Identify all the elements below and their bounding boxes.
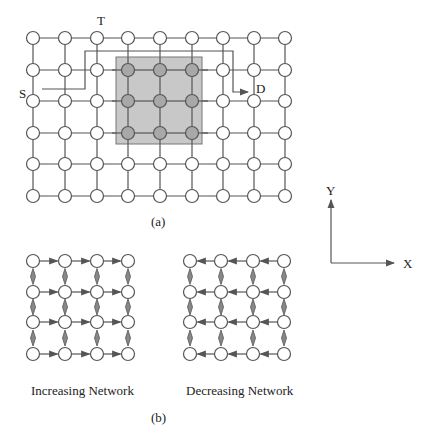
node <box>247 316 260 329</box>
node <box>59 190 72 203</box>
node <box>186 190 199 203</box>
node <box>186 127 199 140</box>
node <box>279 32 292 45</box>
bidirectional-arrow <box>282 299 287 315</box>
caption-a: (a) <box>151 214 165 230</box>
node <box>184 316 197 329</box>
label-d: D <box>256 81 265 97</box>
bidirectional-arrow <box>126 299 131 315</box>
axis-y-label: Y <box>326 183 335 199</box>
node <box>248 64 261 77</box>
node <box>154 32 167 45</box>
node <box>215 255 228 268</box>
bidirectional-arrow <box>31 299 36 315</box>
node <box>122 95 135 108</box>
increasing-network <box>27 255 135 361</box>
node <box>122 64 135 77</box>
node <box>27 255 40 268</box>
bidirectional-arrow <box>188 330 193 346</box>
node <box>154 127 167 140</box>
node <box>122 348 135 361</box>
decreasing-network-title: Decreasing Network <box>186 383 293 399</box>
node <box>247 255 260 268</box>
bidirectional-arrow <box>188 269 193 285</box>
node <box>154 190 167 203</box>
node <box>59 348 72 361</box>
node <box>279 190 292 203</box>
node <box>122 32 135 45</box>
bidirectional-arrow <box>219 299 224 315</box>
node <box>59 95 72 108</box>
bidirectional-arrow <box>251 269 256 285</box>
node <box>247 286 260 299</box>
node <box>186 95 199 108</box>
node <box>278 255 291 268</box>
increasing-network-title: Increasing Network <box>31 383 134 399</box>
bidirectional-arrow <box>31 269 36 285</box>
node <box>215 348 228 361</box>
node <box>186 64 199 77</box>
axis-x-label: X <box>403 256 412 272</box>
node <box>217 32 230 45</box>
node <box>91 190 104 203</box>
node <box>154 64 167 77</box>
node <box>215 316 228 329</box>
node <box>91 127 104 140</box>
node <box>279 95 292 108</box>
mesh-grid-a <box>27 32 292 203</box>
bidirectional-arrow <box>63 330 68 346</box>
node <box>184 286 197 299</box>
node <box>248 158 261 171</box>
node <box>122 316 135 329</box>
node <box>59 158 72 171</box>
node <box>59 255 72 268</box>
bidirectional-arrow <box>126 269 131 285</box>
node <box>122 127 135 140</box>
node <box>27 95 40 108</box>
node <box>59 32 72 45</box>
node <box>154 95 167 108</box>
node <box>278 348 291 361</box>
node <box>278 286 291 299</box>
bidirectional-arrow <box>219 330 224 346</box>
node <box>154 158 167 171</box>
node <box>27 190 40 203</box>
node <box>122 158 135 171</box>
node <box>217 158 230 171</box>
bidirectional-arrow <box>282 269 287 285</box>
label-s: S <box>19 86 26 102</box>
node <box>186 32 199 45</box>
bidirectional-arrow <box>126 330 131 346</box>
bidirectional-arrow <box>95 330 100 346</box>
node <box>27 64 40 77</box>
node <box>91 64 104 77</box>
node <box>215 286 228 299</box>
decreasing-network <box>184 255 291 361</box>
node <box>59 127 72 140</box>
node <box>59 64 72 77</box>
caption-b: (b) <box>151 410 166 426</box>
node <box>27 32 40 45</box>
node <box>122 286 135 299</box>
bidirectional-arrow <box>31 330 36 346</box>
node <box>27 348 40 361</box>
bidirectional-arrow <box>219 269 224 285</box>
node <box>91 286 104 299</box>
node <box>91 95 104 108</box>
node <box>279 64 292 77</box>
node <box>248 32 261 45</box>
node <box>91 316 104 329</box>
node <box>91 255 104 268</box>
node <box>278 316 291 329</box>
node <box>217 190 230 203</box>
node <box>248 127 261 140</box>
node <box>91 348 104 361</box>
node <box>91 32 104 45</box>
node <box>27 286 40 299</box>
node <box>217 64 230 77</box>
bidirectional-arrow <box>95 269 100 285</box>
node <box>122 255 135 268</box>
xy-axes <box>331 200 394 263</box>
node <box>279 158 292 171</box>
node <box>184 348 197 361</box>
